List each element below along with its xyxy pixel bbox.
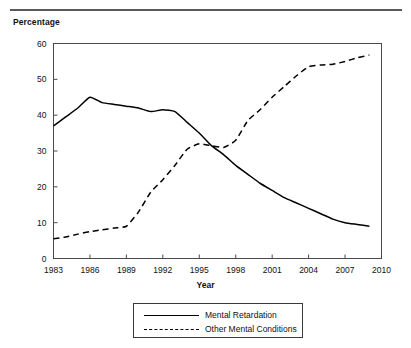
x-tick-label: 1986 <box>80 265 99 275</box>
x-tick-group: 1983198619891992199519982001200420072010 <box>44 255 391 275</box>
legend-item-mental-retardation: Mental Retardation <box>134 308 304 322</box>
x-tick-label: 2007 <box>336 265 355 275</box>
x-tick-label: 1989 <box>117 265 136 275</box>
chart-legend: Mental Retardation Other Mental Conditio… <box>133 303 303 338</box>
x-tick-label: 1998 <box>226 265 245 275</box>
data-line-mental-retardation <box>54 97 370 226</box>
y-tick-label: 0 <box>42 254 47 264</box>
legend-label-mental-retardation: Mental Retardation <box>205 310 277 320</box>
y-tick-label: 30 <box>37 146 47 156</box>
data-series-group <box>54 55 370 239</box>
legend-item-other-mental-conditions: Other Mental Conditions <box>134 322 304 336</box>
y-tick-label: 60 <box>37 39 47 49</box>
x-tick-label: 1983 <box>44 265 63 275</box>
x-tick-label: 2001 <box>263 265 282 275</box>
y-tick-group: 0102030405060 <box>37 39 57 264</box>
x-tick-label: 1995 <box>190 265 209 275</box>
y-tick-label: 10 <box>37 218 47 228</box>
y-tick-label: 20 <box>37 182 47 192</box>
x-axis-title: Year <box>0 280 411 290</box>
y-tick-label: 50 <box>37 74 47 84</box>
chart-figure: Percentage 0102030405060 198319861989199… <box>0 0 411 348</box>
legend-label-other-mental-conditions: Other Mental Conditions <box>205 324 297 334</box>
legend-key-dashed-line-icon <box>144 324 199 334</box>
x-tick-label: 1992 <box>153 265 172 275</box>
legend-key-solid-line-icon <box>144 310 199 320</box>
chart-plot-area: 0102030405060 19831986198919921995199820… <box>0 0 411 348</box>
x-tick-label: 2004 <box>299 265 318 275</box>
x-tick-label: 2010 <box>372 265 391 275</box>
y-tick-label: 40 <box>37 110 47 120</box>
data-line-other-mental-conditions <box>54 55 370 239</box>
